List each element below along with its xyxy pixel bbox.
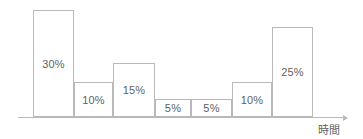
bar-value-label: 10% <box>232 94 272 106</box>
bar-value-label: 5% <box>155 102 191 114</box>
x-axis-arrow-icon <box>343 115 348 121</box>
histogram-chart: 30%10%15%5%5%10%25% 時間 <box>0 0 363 139</box>
bar-value-label: 10% <box>74 94 113 106</box>
bar-value-label: 5% <box>191 102 232 114</box>
bar-value-label: 25% <box>272 66 313 78</box>
x-axis-line <box>18 117 343 118</box>
bar-value-label: 30% <box>33 58 74 70</box>
bar-value-label: 15% <box>113 84 155 96</box>
x-axis-label: 時間 <box>318 124 340 137</box>
chart-plot-area: 30%10%15%5%5%10%25% <box>0 0 363 139</box>
